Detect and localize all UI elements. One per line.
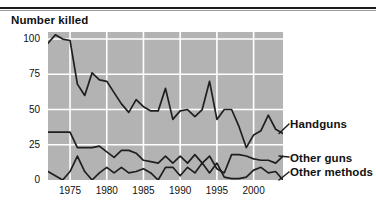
chart-plot-svg: [0, 0, 376, 216]
y-tick-label: 50: [10, 104, 40, 115]
x-tick-label: 1975: [50, 185, 90, 196]
plot-area: 0255075100 197519801985199019952000: [0, 0, 376, 216]
y-tick-label: 75: [10, 68, 40, 79]
plot-background: [48, 32, 283, 180]
x-tick-label: 1990: [160, 185, 200, 196]
x-tick-label: 1980: [87, 185, 127, 196]
y-tick-label: 0: [10, 174, 40, 185]
y-tick-label: 100: [10, 33, 40, 44]
series-label-other-guns: Other guns: [290, 152, 352, 164]
legend-leader-other-guns: [279, 156, 289, 157]
plot-background-rect: [48, 32, 283, 180]
x-tick-label: 1985: [123, 185, 163, 196]
series-label-handguns: Handguns: [290, 118, 347, 130]
chart-figure: Number killed 0255075100 197519801985199…: [0, 0, 376, 216]
y-tick-label: 25: [10, 139, 40, 150]
series-label-other-methods: Other methods: [290, 166, 373, 178]
x-tick-label: 2000: [234, 185, 274, 196]
x-tick-label: 1995: [197, 185, 237, 196]
